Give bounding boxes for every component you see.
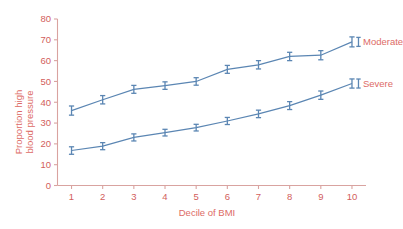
x-tick-label: 6 bbox=[225, 191, 230, 202]
x-tick-label: 3 bbox=[131, 191, 136, 202]
y-axis: 01020304050607080 bbox=[40, 13, 57, 191]
x-tick-label: 10 bbox=[347, 191, 358, 202]
x-tick-label: 5 bbox=[194, 191, 199, 202]
y-tick-label: 60 bbox=[40, 55, 51, 66]
chart-background bbox=[0, 0, 403, 229]
y-tick-label: 80 bbox=[40, 13, 51, 24]
series-label-text: Moderate bbox=[363, 36, 403, 47]
y-tick-label: 50 bbox=[40, 76, 51, 87]
series-label-moderate: Moderate bbox=[356, 36, 403, 47]
y-axis-tick-labels: 01020304050607080 bbox=[40, 13, 51, 191]
x-tick-label: 2 bbox=[100, 191, 105, 202]
y-tick-label: 30 bbox=[40, 117, 51, 128]
y-axis-title-line-2: blood pressure bbox=[24, 91, 35, 154]
y-tick-label: 10 bbox=[40, 159, 51, 170]
x-tick-label: 1 bbox=[69, 191, 74, 202]
y-tick-label: 40 bbox=[40, 97, 51, 108]
x-tick-label: 9 bbox=[318, 191, 323, 202]
y-tick-label: 20 bbox=[40, 138, 51, 149]
series-label-text: Severe bbox=[363, 78, 393, 89]
y-axis-title-line-1: Proportion high bbox=[13, 90, 24, 154]
y-axis-title: Proportion high blood pressure bbox=[13, 90, 35, 154]
x-tick-label: 7 bbox=[256, 191, 261, 202]
x-axis-title: Decile of BMI bbox=[179, 207, 236, 218]
blood-pressure-by-bmi-decile-line-chart: 01020304050607080 12345678910 ModerateSe… bbox=[0, 0, 403, 229]
y-tick-label: 0 bbox=[46, 180, 51, 191]
y-tick-label: 70 bbox=[40, 34, 51, 45]
x-tick-label: 4 bbox=[162, 191, 167, 202]
x-tick-label: 8 bbox=[287, 191, 292, 202]
chart-figure: 01020304050607080 12345678910 ModerateSe… bbox=[0, 0, 403, 229]
